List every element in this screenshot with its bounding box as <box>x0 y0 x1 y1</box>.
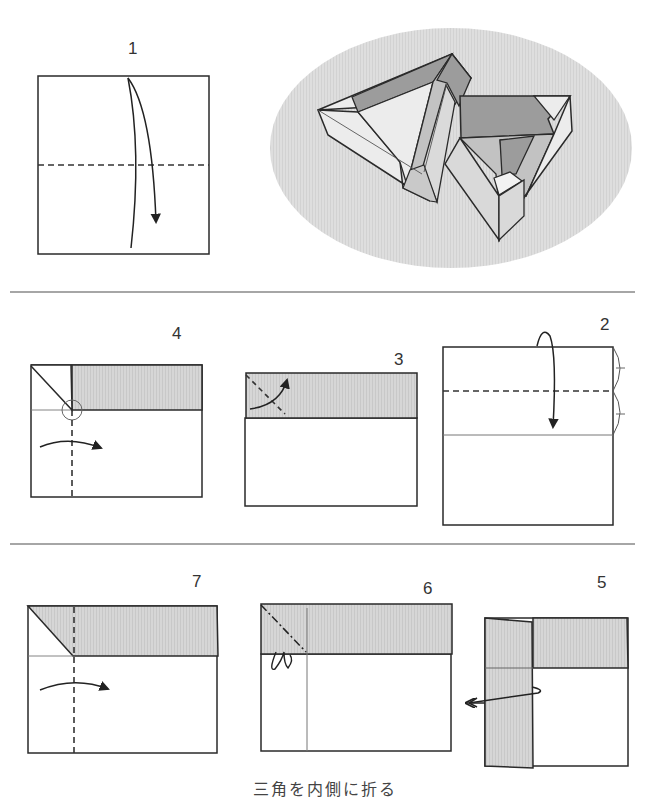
step-2-diagram <box>443 332 625 525</box>
step-number-7: 7 <box>192 573 201 590</box>
diagram-drawing <box>0 0 650 800</box>
step-6-diagram <box>261 604 487 751</box>
finished-model-illustration <box>270 28 632 268</box>
step-number-1: 1 <box>128 40 137 57</box>
origami-instruction-sheet: 1 4 3 2 7 6 5 三角を内側に折る <box>0 0 650 800</box>
step-7-diagram <box>28 606 218 753</box>
step-number-5: 5 <box>597 574 606 591</box>
step-number-4: 4 <box>172 325 181 342</box>
step-number-2: 2 <box>600 316 609 333</box>
step-number-3: 3 <box>394 351 403 368</box>
step-5-diagram <box>469 618 628 768</box>
step-number-6: 6 <box>423 580 432 597</box>
step-1-diagram <box>38 76 209 254</box>
step-4-diagram <box>31 365 202 497</box>
instruction-caption: 三角を内側に折る <box>0 776 650 800</box>
step-3-diagram <box>245 373 417 506</box>
